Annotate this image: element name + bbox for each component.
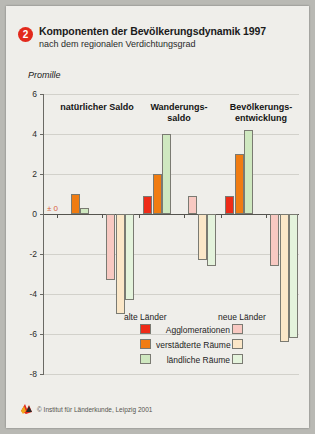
legend-label: verstädterte Räume: [156, 340, 230, 350]
legend-swatch-neue-laender: [232, 339, 243, 349]
legend-swatch-alte-laender: [140, 354, 151, 364]
legend-swatch-alte-laender: [140, 339, 151, 349]
copyright-text: © Institut für Länderkunde, Leipzig 2001: [37, 406, 152, 413]
legend-swatch-alte-laender: [140, 324, 151, 334]
legend-swatch-neue-laender: [232, 354, 243, 364]
legend-header-alte-laender: alte Länder: [124, 312, 167, 322]
ifl-logo-icon: [20, 402, 33, 415]
poster-card: 2 Komponenten der Bevölkerungsdynamik 19…: [6, 6, 309, 428]
legend-label: Agglomerationen: [156, 325, 230, 335]
chart-legend: alte Länderneue LänderAgglomerationenver…: [6, 6, 309, 428]
legend-swatch-neue-laender: [232, 324, 243, 334]
legend-header-neue-laender: neue Länder: [218, 312, 266, 322]
legend-label: ländliche Räume: [156, 355, 230, 365]
